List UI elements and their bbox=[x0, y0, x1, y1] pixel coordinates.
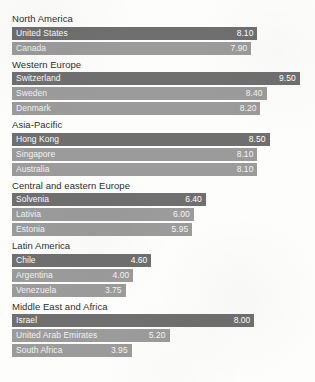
bar-row: Denmark8.20 bbox=[12, 102, 315, 115]
bar-row: Canada7.90 bbox=[12, 42, 315, 55]
bar-group: North AmericaUnited States8.10Canada7.90 bbox=[0, 12, 315, 55]
bar-row: Singapore8.10 bbox=[12, 148, 315, 161]
bar-value: 9.50 bbox=[279, 72, 296, 85]
bar: Lativia6.00 bbox=[12, 208, 194, 221]
bar-row: Venezuela3.75 bbox=[12, 284, 315, 297]
bar-row: Argentina4.00 bbox=[12, 269, 315, 282]
bar-value: 8.40 bbox=[246, 87, 263, 100]
group-title: Latin America bbox=[0, 239, 315, 252]
bar-label: Switzerland bbox=[16, 72, 61, 85]
bar-label: United States bbox=[16, 27, 68, 40]
bar-row: Estonia5.95 bbox=[12, 223, 315, 236]
bar-row: Solvenia6.40 bbox=[12, 193, 315, 206]
bar: South Africa3.95 bbox=[12, 344, 132, 357]
bar-label: Solvenia bbox=[16, 193, 49, 206]
bar-row: Lativia6.00 bbox=[12, 208, 315, 221]
bar-label: Chile bbox=[16, 254, 36, 267]
bar: Argentina4.00 bbox=[12, 269, 133, 282]
bar-value: 3.75 bbox=[105, 284, 122, 297]
bar-label: United Arab Emirates bbox=[16, 329, 97, 342]
bar-group: Middle East and AfricaIsrael8.00United A… bbox=[0, 300, 315, 358]
bar-label: Israel bbox=[16, 314, 37, 327]
bar-value: 6.40 bbox=[185, 193, 202, 206]
bar-value: 8.00 bbox=[234, 314, 251, 327]
bar-label: Venezuela bbox=[16, 284, 56, 297]
bar-value: 8.20 bbox=[240, 102, 257, 115]
bar-value: 5.20 bbox=[149, 329, 166, 342]
bar: Singapore8.10 bbox=[12, 148, 257, 161]
bar-group: Western EuropeSwitzerland9.50Sweden8.40D… bbox=[0, 58, 315, 116]
bar-value: 6.00 bbox=[173, 208, 190, 221]
bar-group: Central and eastern EuropeSolvenia6.40La… bbox=[0, 179, 315, 237]
bar-label: Australia bbox=[16, 163, 50, 176]
bar-label: Hong Kong bbox=[16, 133, 59, 146]
bar-row: Chile4.60 bbox=[12, 254, 315, 267]
bar-label: South Africa bbox=[16, 344, 62, 357]
bar: United Arab Emirates5.20 bbox=[12, 329, 170, 342]
bar-label: Estonia bbox=[16, 223, 45, 236]
bar-row: United Arab Emirates5.20 bbox=[12, 329, 315, 342]
bar-label: Canada bbox=[16, 42, 46, 55]
bar-row: South Africa3.95 bbox=[12, 344, 315, 357]
bar-chart: North AmericaUnited States8.10Canada7.90… bbox=[0, 0, 315, 382]
bar-label: Denmark bbox=[16, 102, 51, 115]
group-title: Middle East and Africa bbox=[0, 300, 315, 313]
group-title: Western Europe bbox=[0, 58, 315, 71]
bar: Solvenia6.40 bbox=[12, 193, 206, 206]
bar: Denmark8.20 bbox=[12, 102, 260, 115]
bar: Chile4.60 bbox=[12, 254, 151, 267]
bar-value: 8.10 bbox=[237, 27, 254, 40]
bar-value: 4.00 bbox=[112, 269, 129, 282]
bar: Switzerland9.50 bbox=[12, 72, 300, 85]
bar-row: Israel8.00 bbox=[12, 314, 315, 327]
bar-value: 5.95 bbox=[172, 223, 189, 236]
bar-label: Sweden bbox=[16, 87, 47, 100]
group-title: Central and eastern Europe bbox=[0, 179, 315, 192]
group-title: North America bbox=[0, 12, 315, 25]
bar: Venezuela3.75 bbox=[12, 284, 126, 297]
bar-value: 7.90 bbox=[231, 42, 248, 55]
bar-group: Asia-PacificHong Kong8.50Singapore8.10Au… bbox=[0, 118, 315, 176]
bar-row: Sweden8.40 bbox=[12, 87, 315, 100]
bar-value: 8.50 bbox=[249, 133, 266, 146]
bar-value: 8.10 bbox=[237, 148, 254, 161]
bar: United States8.10 bbox=[12, 27, 257, 40]
bar: Sweden8.40 bbox=[12, 87, 267, 100]
bar-row: Hong Kong8.50 bbox=[12, 133, 315, 146]
bar-value: 4.60 bbox=[131, 254, 148, 267]
bar-label: Singapore bbox=[16, 148, 55, 161]
bar-label: Argentina bbox=[16, 269, 53, 282]
group-title: Asia-Pacific bbox=[0, 118, 315, 131]
bar-row: Australia8.10 bbox=[12, 163, 315, 176]
bar-group: Latin AmericaChile4.60Argentina4.00Venez… bbox=[0, 239, 315, 297]
bar-label: Lativia bbox=[16, 208, 41, 221]
bar: Australia8.10 bbox=[12, 163, 257, 176]
bar: Estonia5.95 bbox=[12, 223, 192, 236]
bar: Canada7.90 bbox=[12, 42, 251, 55]
bar-row: Switzerland9.50 bbox=[12, 72, 315, 85]
bar-value: 8.10 bbox=[237, 163, 254, 176]
bar: Israel8.00 bbox=[12, 314, 254, 327]
bar: Hong Kong8.50 bbox=[12, 133, 270, 146]
bar-row: United States8.10 bbox=[12, 27, 315, 40]
bar-value: 3.95 bbox=[111, 344, 128, 357]
